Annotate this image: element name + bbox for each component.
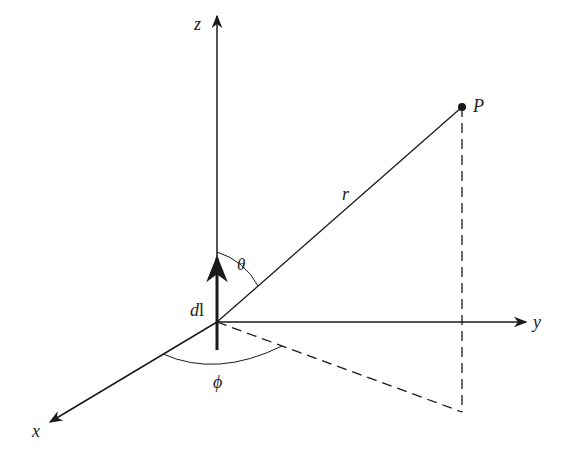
phi-arc [163,346,282,364]
spherical-coordinates-diagram: z y x dl r P θ ϕ [0,0,569,464]
y-axis-label: y [531,312,541,332]
r-label: r [342,184,350,204]
theta-label: θ [237,255,245,274]
x-axis-label: x [31,421,40,441]
projection-xy-dashed [217,322,462,412]
radius-line [217,107,462,322]
phi-label: ϕ [213,372,222,392]
point-p-label: P [472,96,484,116]
z-axis-label: z [193,14,201,34]
x-axis [50,322,217,422]
dl-label: dl [190,300,204,320]
